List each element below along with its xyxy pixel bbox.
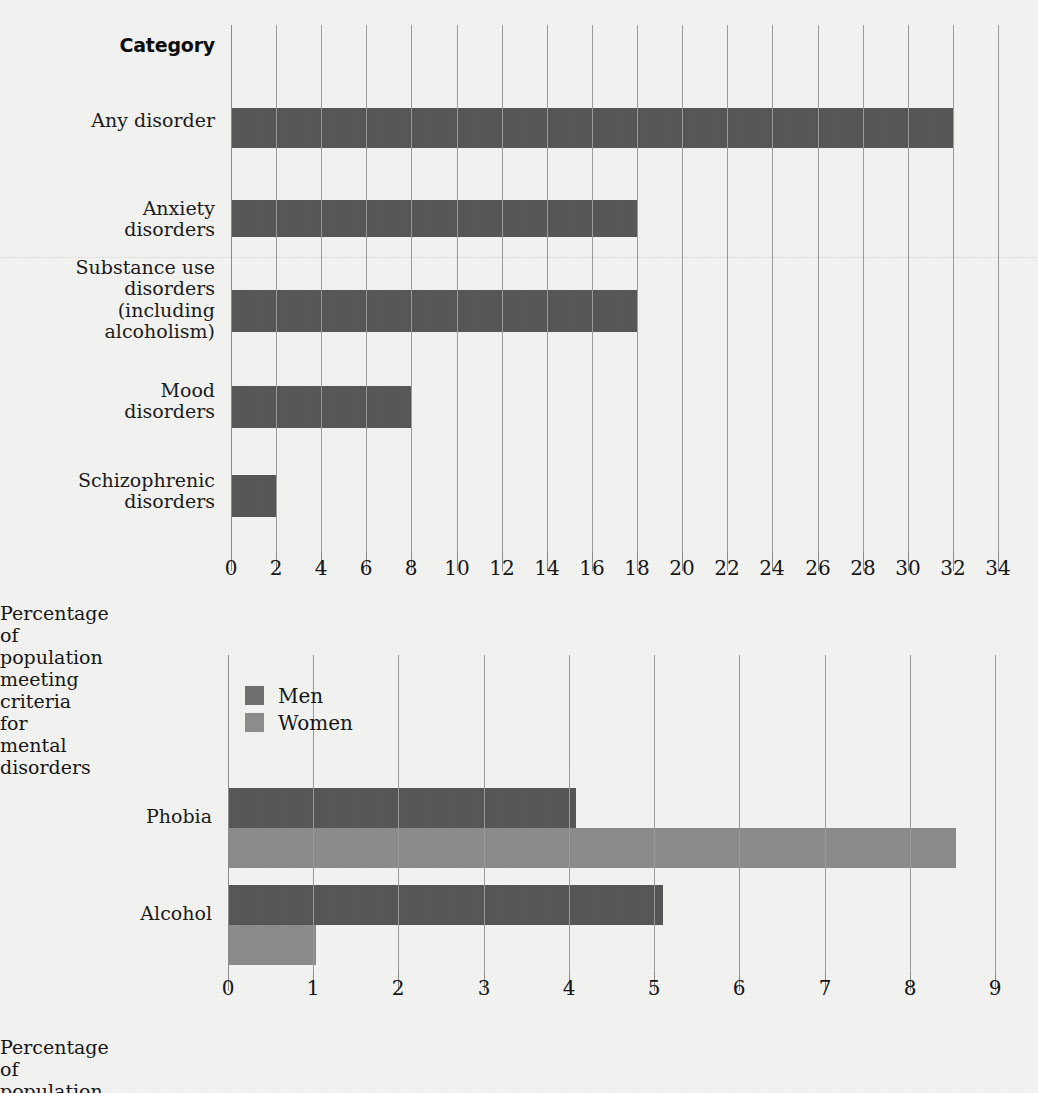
top-axis-tick-label-6: 6 xyxy=(360,556,373,580)
top-axis-tick-label-34: 34 xyxy=(985,556,1010,580)
top-axis-gridline-16 xyxy=(592,25,593,553)
legend-men-women: Men Women xyxy=(245,682,353,736)
top-axis-tick-label-32: 32 xyxy=(940,556,965,580)
category-label-mood-disorders: Mood disorders xyxy=(0,380,215,423)
top-axis-tick-label-16: 16 xyxy=(579,556,604,580)
bottom-axis-gridline-2 xyxy=(398,655,399,973)
category-label-substance-use-disorders: Substance use disorders (including alcoh… xyxy=(0,257,215,342)
bottom-axis-gridline-4 xyxy=(569,655,570,973)
top-axis-tick-label-8: 8 xyxy=(405,556,418,580)
top-axis-tick-label-0: 0 xyxy=(225,556,238,580)
bottom-axis-gridline-6 xyxy=(739,655,740,973)
top-axis-gridline-2 xyxy=(276,25,277,553)
category-label-any-disorder: Any disorder xyxy=(0,110,215,131)
bottom-axis-tick-label-6: 6 xyxy=(733,976,746,1000)
top-axis-tick-label-26: 26 xyxy=(805,556,830,580)
bottom-axis-gridline-8 xyxy=(910,655,911,973)
bottom-axis-tick-label-8: 8 xyxy=(904,976,917,1000)
bottom-axis-tick-label-5: 5 xyxy=(648,976,661,1000)
category-label-alcohol: Alcohol xyxy=(0,903,212,924)
top-axis-tick-label-2: 2 xyxy=(270,556,283,580)
top-axis-gridline-14 xyxy=(547,25,548,553)
bottom-axis-tick-label-1: 1 xyxy=(307,976,320,1000)
top-axis-gridline-10 xyxy=(457,25,458,553)
top-axis-gridline-22 xyxy=(727,25,728,553)
top-axis-tick-label-22: 22 xyxy=(714,556,739,580)
bottom-axis-gridline-5 xyxy=(654,655,655,973)
bottom-axis-tick-label-9: 9 xyxy=(989,976,1002,1000)
bottom-axis-gridline-0 xyxy=(228,655,229,973)
bottom-axis-gridline-7 xyxy=(825,655,826,973)
scan-seam-line xyxy=(0,257,1038,258)
top-axis-gridline-20 xyxy=(682,25,683,553)
bar-phobia-women xyxy=(228,828,956,868)
top-axis-gridline-24 xyxy=(772,25,773,553)
legend-item-men: Men xyxy=(245,682,353,709)
category-label-schizophrenic-disorders: Schizophrenic disorders xyxy=(0,470,215,513)
figure-root: Category Any disorder Anxiety disorders … xyxy=(0,0,1038,1093)
top-axis-gridline-8 xyxy=(411,25,412,553)
plot-area-top xyxy=(231,25,998,553)
top-axis-gridline-26 xyxy=(818,25,819,553)
legend-item-women: Women xyxy=(245,709,353,736)
top-axis-tick-label-20: 20 xyxy=(669,556,694,580)
category-label-phobia: Phobia xyxy=(0,806,212,827)
top-axis-gridline-6 xyxy=(366,25,367,553)
bottom-axis-tick-label-0: 0 xyxy=(222,976,235,1000)
bar-substance-use-disorders xyxy=(231,290,637,332)
bar-anxiety-disorders xyxy=(231,200,637,237)
legend-swatch-women-icon xyxy=(245,713,264,732)
top-axis-tick-label-4: 4 xyxy=(315,556,328,580)
top-axis-gridline-30 xyxy=(908,25,909,553)
legend-swatch-men-icon xyxy=(245,686,264,705)
top-axis-gridline-12 xyxy=(502,25,503,553)
category-column-header: Category xyxy=(0,34,215,56)
legend-label-women: Women xyxy=(278,713,353,733)
top-axis-gridline-28 xyxy=(863,25,864,553)
top-axis-gridline-4 xyxy=(321,25,322,553)
top-axis-tick-label-24: 24 xyxy=(759,556,784,580)
bottom-axis-tick-label-7: 7 xyxy=(819,976,832,1000)
category-label-anxiety-disorders: Anxiety disorders xyxy=(0,198,215,241)
top-axis-tick-label-12: 12 xyxy=(489,556,514,580)
top-axis-gridline-34 xyxy=(998,25,999,553)
bar-phobia-men xyxy=(228,788,576,828)
top-axis-tick-label-28: 28 xyxy=(850,556,875,580)
bottom-axis-tick-label-3: 3 xyxy=(478,976,491,1000)
bottom-axis-tick-label-2: 2 xyxy=(392,976,405,1000)
top-axis-tick-label-14: 14 xyxy=(534,556,559,580)
bottom-axis-gridline-9 xyxy=(995,655,996,973)
bottom-axis-gridline-3 xyxy=(484,655,485,973)
bar-alcohol-men xyxy=(228,885,663,925)
bar-schizophrenic-disorders xyxy=(231,475,276,517)
top-axis-gridline-32 xyxy=(953,25,954,553)
bar-alcohol-women xyxy=(228,925,316,965)
bottom-axis-tick-label-4: 4 xyxy=(563,976,576,1000)
top-axis-gridline-18 xyxy=(637,25,638,553)
top-axis-tick-label-30: 30 xyxy=(895,556,920,580)
legend-label-men: Men xyxy=(278,686,323,706)
top-axis-tick-label-18: 18 xyxy=(624,556,649,580)
top-axis-tick-label-10: 10 xyxy=(444,556,469,580)
top-axis-gridline-0 xyxy=(231,25,232,553)
